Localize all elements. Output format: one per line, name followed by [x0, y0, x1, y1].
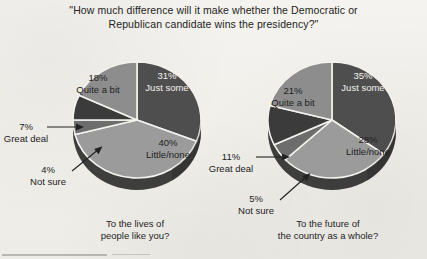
left-callout-great-deal: 7% Great deal — [0, 121, 52, 144]
right-slice-label-little-none: 28% Little/none — [330, 134, 406, 157]
caption-left-chart: To the lives of people like you? — [60, 218, 210, 242]
bottom-rule-secondary — [112, 254, 150, 255]
right-just-some-name: Just some — [328, 82, 398, 94]
right-just-some-pct: 35% — [328, 70, 398, 82]
right-callout-not-sure: 5% Not sure — [228, 193, 284, 216]
left-little-none-name: Little/none — [130, 149, 206, 161]
left-slice-label-little-none: 40% Little/none — [130, 137, 206, 160]
right-callout-great-deal: 11% Great deal — [203, 151, 259, 174]
left-not-sure-name: Not sure — [20, 176, 76, 188]
right-little-none-pct: 28% — [330, 134, 406, 146]
right-slice-label-just-some: 35% Just some — [328, 70, 398, 93]
caption-right-line2: the country as a whole? — [253, 230, 403, 242]
right-quite-a-bit-pct: 21% — [256, 85, 330, 97]
left-great-deal-name: Great deal — [0, 133, 52, 145]
left-great-deal-pct: 7% — [0, 121, 52, 133]
caption-left-line2: people like you? — [60, 230, 210, 242]
caption-right-line1: To the future of — [253, 218, 403, 230]
right-little-none-name: Little/none — [330, 146, 406, 158]
caption-right-chart: To the future of the country as a whole? — [253, 218, 403, 242]
right-not-sure-pct: 5% — [228, 193, 284, 205]
left-callout-not-sure: 4% Not sure — [20, 164, 76, 187]
right-slice-label-quite-a-bit: 21% Quite a bit — [256, 85, 330, 108]
left-just-some-name: Just some — [132, 82, 202, 94]
left-quite-a-bit-pct: 18% — [61, 72, 135, 84]
right-great-deal-pct: 11% — [203, 151, 259, 163]
left-little-none-pct: 40% — [130, 137, 206, 149]
right-not-sure-name: Not sure — [228, 205, 284, 217]
left-slice-label-just-some: 31% Just some — [132, 70, 202, 93]
left-slice-label-quite-a-bit: 18% Quite a bit — [61, 72, 135, 95]
pie-chart-figure: "How much difference will it make whethe… — [0, 0, 427, 259]
left-just-some-pct: 31% — [132, 70, 202, 82]
left-not-sure-pct: 4% — [20, 164, 76, 176]
caption-left-line1: To the lives of — [60, 218, 210, 230]
right-quite-a-bit-name: Quite a bit — [256, 97, 330, 109]
bottom-rule — [2, 254, 107, 256]
left-quite-a-bit-name: Quite a bit — [61, 84, 135, 96]
right-great-deal-name: Great deal — [203, 163, 259, 175]
